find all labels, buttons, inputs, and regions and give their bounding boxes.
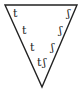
triangle-diagram: t t t t ʃ ʃ ʃ ʃ xyxy=(0,0,81,90)
left-label-t-4: t xyxy=(37,56,42,69)
right-label-esh-3: ʃ xyxy=(49,41,55,54)
right-label-esh-1: ʃ xyxy=(65,7,71,20)
left-label-t-3: t xyxy=(30,41,35,54)
left-label-t-1: t xyxy=(13,7,18,20)
left-label-t-2: t xyxy=(22,24,27,37)
inverted-triangle-shape: t t t t ʃ ʃ ʃ ʃ xyxy=(0,0,81,90)
right-label-esh-2: ʃ xyxy=(57,24,63,37)
right-label-esh-4: ʃ xyxy=(41,56,47,69)
